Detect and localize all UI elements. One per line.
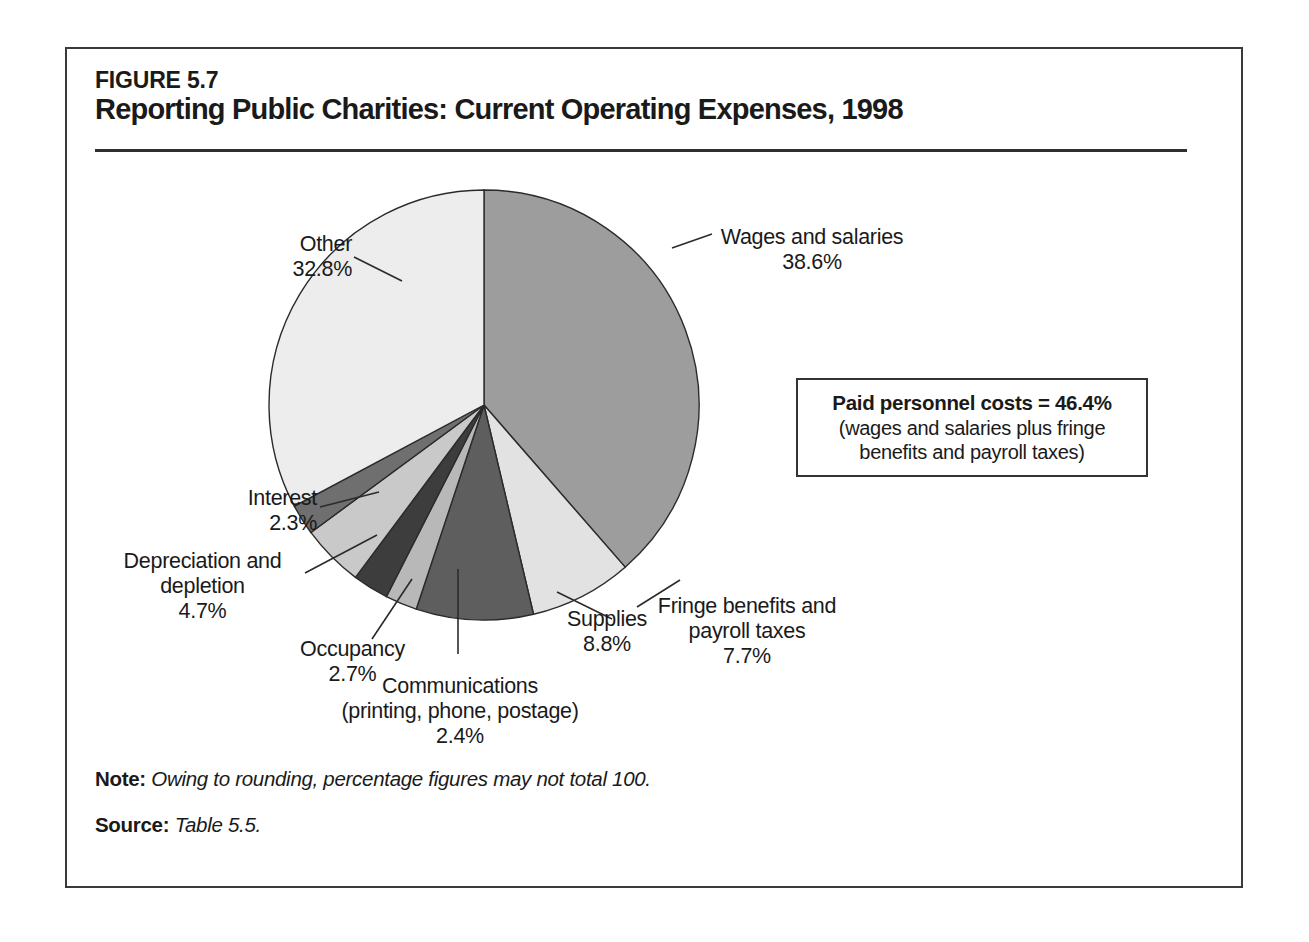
source-line: Source: Table 5.5. [95, 813, 261, 837]
callout-headline: Paid personnel costs = 46.4% [832, 391, 1111, 415]
note-text: Owing to rounding, percentage figures ma… [151, 767, 650, 790]
pie-label-fringe-line2: payroll taxes [622, 619, 872, 644]
figure-frame: FIGURE 5.7 Reporting Public Charities: C… [65, 47, 1243, 888]
pie-label-wages: Wages and salaries 38.6% [682, 225, 942, 275]
pie-label-fringe: Fringe benefits and payroll taxes 7.7% [622, 594, 872, 669]
note-line: Note: Owing to rounding, percentage figu… [95, 767, 651, 791]
pie-label-fringe-value: 7.7% [622, 644, 872, 669]
pie-label-depreciation-line1: Depreciation and [95, 549, 310, 574]
pie-label-depreciation-value: 4.7% [95, 599, 310, 624]
callout-subline-1: (wages and salaries plus fringe [839, 417, 1105, 440]
pie-label-occupancy-name: Occupancy [270, 637, 435, 662]
pie-label-other-value: 32.8% [167, 257, 352, 282]
pie-label-wages-name: Wages and salaries [682, 225, 942, 250]
source-text: Table 5.5. [175, 813, 261, 836]
callout-subline-2: benefits and payroll taxes) [859, 441, 1084, 464]
pie-label-interest-value: 2.3% [137, 511, 317, 536]
pie-label-communications-value: 2.4% [265, 724, 655, 749]
pie-label-communications-line2: (printing, phone, postage) [265, 699, 655, 724]
pie-label-communications-line1: Communications [265, 674, 655, 699]
pie-label-fringe-line1: Fringe benefits and [622, 594, 872, 619]
pie-label-other-name: Other [167, 232, 352, 257]
note-label: Note: [95, 767, 146, 790]
pie-label-communications: Communications (printing, phone, postage… [265, 674, 655, 749]
pie-label-wages-value: 38.6% [682, 250, 942, 275]
pie-label-interest: Interest 2.3% [137, 486, 317, 536]
paid-personnel-callout: Paid personnel costs = 46.4% (wages and … [796, 378, 1148, 477]
pie-label-other: Other 32.8% [167, 232, 352, 282]
pie-label-depreciation-line2: depletion [95, 574, 310, 599]
pie-label-depreciation: Depreciation and depletion 4.7% [95, 549, 310, 624]
source-label: Source: [95, 813, 169, 836]
pie-chart: Other 32.8% Wages and salaries 38.6% Int… [67, 49, 1245, 890]
pie-label-interest-name: Interest [137, 486, 317, 511]
